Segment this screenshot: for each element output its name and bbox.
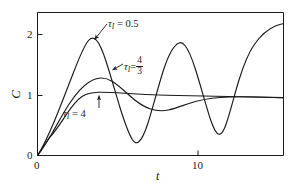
curve-tau-4 bbox=[38, 92, 284, 155]
tau-value: 4 bbox=[80, 108, 85, 119]
x-tick-label-10: 10 bbox=[192, 160, 203, 171]
annotation-tau-4-3: τI=43 bbox=[124, 56, 143, 76]
y-tick-label-0: 0 bbox=[27, 150, 33, 161]
equals-sign: = bbox=[72, 108, 78, 119]
tau-subscript: I bbox=[112, 22, 115, 31]
fraction-four-thirds: 43 bbox=[136, 56, 143, 76]
curve-tau-0-5 bbox=[38, 24, 284, 156]
fraction-denominator: 3 bbox=[136, 67, 143, 77]
chart-figure: C t 0 1 2 0 10 τI = 0.5 τI=43 τI = 4 bbox=[0, 0, 296, 184]
annotation-tau-4: τI = 4 bbox=[63, 109, 86, 120]
annotation-tau-0-5: τI = 0.5 bbox=[108, 19, 139, 30]
x-tick-label-0: 0 bbox=[34, 160, 40, 171]
x-axis-label: t bbox=[156, 170, 159, 182]
y-tick-label-1: 1 bbox=[27, 90, 33, 101]
y-axis-label: C bbox=[9, 90, 22, 99]
y-tick-label-2: 2 bbox=[27, 29, 33, 40]
tau-subscript: I bbox=[67, 112, 70, 121]
chart-plot-area bbox=[0, 0, 296, 184]
y-axis-ticks bbox=[38, 35, 43, 156]
tau-value: 0.5 bbox=[125, 18, 138, 29]
equals-sign: = bbox=[117, 18, 123, 29]
axis-frame bbox=[38, 13, 284, 156]
